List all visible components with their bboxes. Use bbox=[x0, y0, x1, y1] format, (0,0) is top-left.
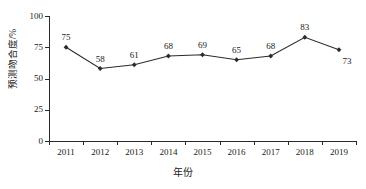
data-point-label: 58 bbox=[86, 55, 114, 64]
data-point-label: 73 bbox=[333, 57, 361, 66]
line-chart: 预测吻合度/% 年份 0255075100 201120122013201420… bbox=[0, 0, 366, 189]
data-point-label: 75 bbox=[52, 33, 80, 42]
data-point-label: 69 bbox=[189, 41, 217, 50]
data-point-marker bbox=[234, 57, 239, 62]
data-point-label: 65 bbox=[223, 46, 251, 55]
data-point-marker bbox=[166, 54, 171, 59]
data-point-marker bbox=[337, 47, 342, 52]
data-point-marker bbox=[132, 62, 137, 67]
data-point-label: 83 bbox=[291, 23, 319, 32]
data-point-marker bbox=[302, 35, 307, 40]
data-point-marker bbox=[200, 52, 205, 57]
data-point-label: 61 bbox=[120, 51, 148, 60]
data-point-label: 68 bbox=[257, 42, 285, 51]
data-point-marker bbox=[268, 54, 273, 59]
data-point-label: 68 bbox=[154, 42, 182, 51]
